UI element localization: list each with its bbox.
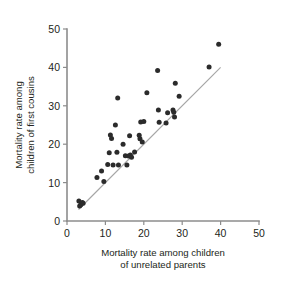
data-point [114,150,119,155]
data-points [76,42,221,209]
data-point [207,65,212,70]
data-point [105,162,110,167]
x-axis-title-line2: of unrelated parents [120,259,206,270]
data-point [144,90,149,95]
y-tick-label: 0 [54,215,60,227]
x-axis-title-line1: Mortality rate among children [101,247,225,258]
y-axis-title-line1: Mortality rate among [13,81,24,168]
data-point [113,123,118,128]
data-point [115,96,120,101]
data-point [172,114,177,119]
data-point [124,162,129,167]
x-tick-label: 40 [215,227,227,239]
identity-reference-line [79,67,221,209]
data-point [111,162,116,167]
x-tick-label: 30 [176,227,188,239]
data-point [109,136,114,141]
x-tick-label: 10 [100,227,112,239]
y-tick-label: 30 [48,100,60,112]
data-point [107,150,112,155]
data-point [156,108,161,113]
data-point [127,133,132,138]
data-point [155,68,160,73]
data-point [173,81,178,86]
y-tick-label: 40 [48,61,60,73]
data-point [132,149,137,154]
data-point [129,155,134,160]
data-point [177,94,182,99]
y-axis-ticks: 01020304050 [48,23,67,227]
x-tick-label: 50 [253,227,265,239]
data-point [81,201,86,206]
x-axis-title: Mortality rate among children of unrelat… [101,247,225,270]
x-axis-ticks: 01020304050 [64,221,265,239]
y-tick-label: 50 [48,23,60,35]
y-axis-title: Mortality rate among children of first c… [13,76,36,174]
x-tick-label: 0 [64,227,70,239]
scatter-plot-figure: 01020304050 01020304050 Mortality rate a… [0,0,284,281]
data-point [165,110,170,115]
reference-line [79,67,221,209]
data-point [116,162,121,167]
data-point [94,175,99,180]
data-point [121,142,126,147]
data-point [99,169,104,174]
x-tick-label: 20 [138,227,150,239]
data-point [157,120,162,125]
y-tick-label: 20 [48,138,60,150]
data-point [141,119,146,124]
y-axis-title-line2: children of first cousins [25,76,36,174]
data-point [216,42,221,47]
data-point [140,139,145,144]
data-point [171,110,176,115]
data-point [164,121,169,126]
data-point [101,179,106,184]
chart-canvas: 01020304050 01020304050 Mortality rate a… [0,0,284,281]
y-tick-label: 10 [48,177,60,189]
